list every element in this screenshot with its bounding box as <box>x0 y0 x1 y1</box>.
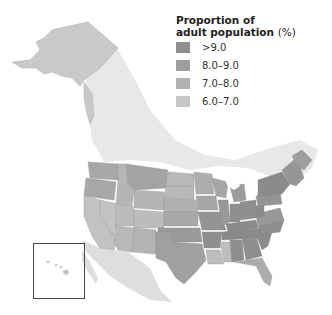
legend-title: Proportion of adult population (%) <box>176 14 326 38</box>
legend-label: 7.0–8.0 <box>202 78 239 89</box>
state-florida <box>234 258 272 286</box>
legend-title-line2: adult population <box>176 26 274 38</box>
hawaii-map <box>34 244 84 298</box>
legend-label: >9.0 <box>202 42 226 53</box>
state-indiana <box>230 204 240 222</box>
state-alabama <box>230 240 244 262</box>
state-utah <box>116 204 134 226</box>
state-montana <box>126 164 168 190</box>
state-louisiana <box>206 250 224 264</box>
state-arizona <box>114 226 134 252</box>
legend-swatch <box>176 42 190 53</box>
legend-label: 6.0–7.0 <box>202 96 239 107</box>
legend-item: >9.0 <box>176 39 326 56</box>
state-north-dakota <box>166 172 194 186</box>
state-oregon <box>84 178 116 200</box>
legend-swatch <box>176 60 190 71</box>
state-new-mexico <box>132 228 156 254</box>
legend-unit: (%) <box>278 26 296 38</box>
legend-item: 6.0–7.0 <box>176 93 326 110</box>
legend-swatch <box>176 96 190 107</box>
legend-item: 8.0–9.0 <box>176 57 326 74</box>
legend-label: 8.0–9.0 <box>202 60 239 71</box>
state-washington <box>88 162 118 180</box>
state-wyoming <box>134 190 164 210</box>
legend-item: 7.0–8.0 <box>176 75 326 92</box>
hawaii-inset <box>33 243 85 299</box>
state-ohio <box>240 200 256 220</box>
state-minnesota <box>194 172 214 194</box>
legend-title-line1: Proportion of <box>176 14 326 26</box>
state-south-dakota <box>164 186 194 200</box>
state-iowa <box>196 196 218 210</box>
state-colorado <box>134 210 164 228</box>
state-nebraska <box>164 198 198 212</box>
legend: Proportion of adult population (%) >9.0 … <box>176 14 326 110</box>
state-arkansas <box>202 232 222 248</box>
state-west-virginia <box>256 204 264 218</box>
legend-swatch <box>176 78 190 89</box>
state-kansas <box>164 212 198 226</box>
